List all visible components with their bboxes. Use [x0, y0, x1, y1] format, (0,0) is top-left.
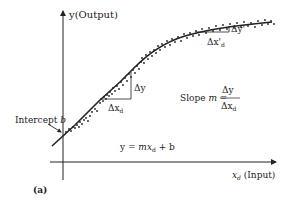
delta-x-prime-label: Δx'd	[207, 37, 225, 48]
delta-y-label: Δy	[134, 83, 146, 93]
regression-diagram: y(Output) Intercept b Δy Δxd Δy' Δx'd Sl…	[0, 0, 291, 206]
fitted-curve	[52, 22, 272, 146]
y-axis-label: y(Output)	[68, 9, 118, 20]
slope-formula: Slope m = Δy Δxd	[180, 85, 240, 112]
x-axis-label: xd (Input)	[232, 170, 275, 181]
data-points	[65, 19, 275, 133]
line-equation: y = mxd + b	[119, 142, 175, 153]
delta-x-label: Δxd	[108, 103, 124, 114]
delta-y-prime-label: Δy'	[231, 24, 245, 34]
svg-text:Δxd: Δxd	[221, 101, 237, 112]
svg-text:Δy: Δy	[222, 85, 234, 95]
intercept-label: Intercept b	[15, 115, 66, 125]
panel-label: (a)	[33, 185, 47, 195]
intercept-arrow	[48, 124, 61, 132]
